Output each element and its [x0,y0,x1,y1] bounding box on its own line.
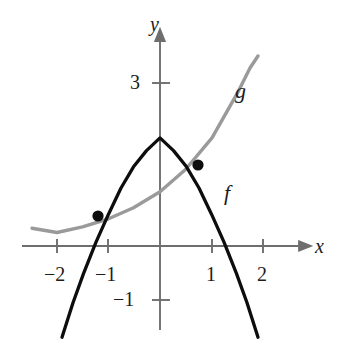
y-tick-label-3: 3 [130,72,140,92]
x-tick-label-neg1: −1 [95,264,116,284]
curve-label-f: f [224,182,230,204]
curve-label-g: g [235,80,246,102]
x-tick-label-2: 2 [257,264,267,284]
x-tick-label-neg2: −2 [44,264,65,284]
x-axis-label: x [315,236,324,256]
plot-canvas [0,0,346,352]
y-tick-label-neg1: −1 [113,289,134,309]
curve-g [32,56,258,233]
intersection-point-left [92,210,103,221]
y-axis-label: y [150,14,159,34]
x-tick-label-1: 1 [206,264,216,284]
intersection-point-right [192,159,203,170]
function-graph-figure: −2 −1 1 2 3 −1 y x g f [0,0,346,352]
